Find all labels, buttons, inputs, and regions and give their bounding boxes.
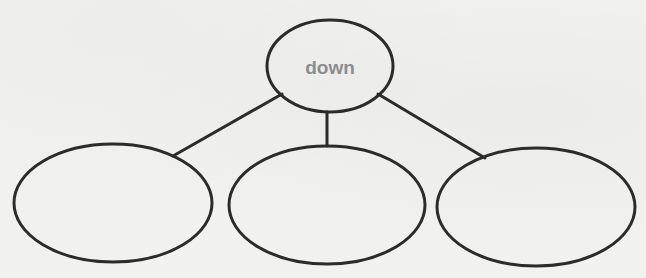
child-node-right-oval	[437, 148, 635, 266]
root-node-label: down	[305, 57, 355, 78]
child-node-right[interactable]	[437, 148, 635, 266]
tree-diagram: down	[0, 0, 646, 278]
connector-right	[378, 94, 485, 158]
diagram-canvas: down	[0, 0, 646, 278]
child-node-left-oval	[14, 144, 212, 262]
root-node[interactable]: down	[267, 20, 393, 112]
child-node-left[interactable]	[14, 144, 212, 262]
child-node-middle[interactable]	[229, 146, 425, 264]
connectors	[173, 94, 485, 158]
child-node-middle-oval	[229, 146, 425, 264]
connector-left	[173, 94, 282, 156]
